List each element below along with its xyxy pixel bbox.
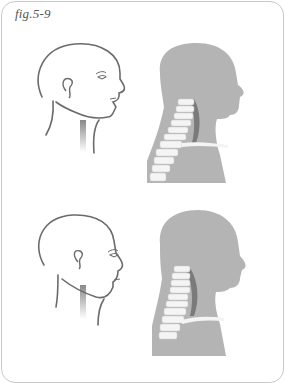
spine-silhouette-icon xyxy=(150,208,255,358)
head-outline-upright xyxy=(20,35,140,165)
head-outline-icon xyxy=(20,35,140,165)
spine-silhouette-icon xyxy=(142,43,252,188)
head-silhouette-spine-upright xyxy=(142,43,252,188)
head-outline-forward xyxy=(18,207,138,332)
head-silhouette-spine-forward xyxy=(150,208,255,358)
head-outline-icon xyxy=(18,207,138,332)
figure-label: fig.5-9 xyxy=(15,6,51,22)
